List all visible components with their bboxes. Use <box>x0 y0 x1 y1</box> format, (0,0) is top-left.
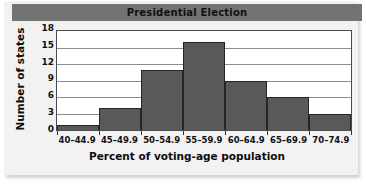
x-tick-label: 40–44.9 <box>56 134 98 146</box>
x-tick-label: 70–74.9 <box>310 134 352 146</box>
y-tick-label: 18 <box>34 24 54 33</box>
x-tick-label: 65–69.9 <box>267 134 309 146</box>
y-tick-label: 6 <box>34 91 54 100</box>
figure-plate: Presidential Election Number of states 1… <box>4 1 358 175</box>
bar <box>183 42 225 130</box>
x-axis-title: Percent of voting-age population <box>12 150 362 162</box>
y-tick-label: 3 <box>34 108 54 117</box>
bar <box>309 114 351 131</box>
y-axis-title: Number of states <box>14 23 28 135</box>
x-tick-label: 55–59.9 <box>183 134 225 146</box>
plot-area <box>56 30 352 131</box>
figure-screenshot: Presidential Election Number of states 1… <box>0 0 366 184</box>
chart-title: Presidential Election <box>12 4 362 21</box>
x-axis-tick-labels: 40–44.9 45–49.9 50–54.9 55–59.9 60–64.9 … <box>56 134 352 146</box>
bar <box>99 108 141 130</box>
bar-series <box>57 31 351 130</box>
y-axis-tick-labels: 18 15 12 9 6 3 0 <box>34 24 54 138</box>
x-tick-label: 45–49.9 <box>98 134 140 146</box>
bar <box>267 97 309 130</box>
y-tick-label: 9 <box>34 74 54 83</box>
y-tick-label: 12 <box>34 58 54 67</box>
x-tick-label: 60–64.9 <box>225 134 267 146</box>
bar <box>57 125 99 131</box>
bar <box>141 70 183 131</box>
title-banner: Presidential Election <box>12 4 362 21</box>
x-tick-label: 50–54.9 <box>141 134 183 146</box>
bar <box>225 81 267 131</box>
y-tick-label: 0 <box>34 125 54 134</box>
y-tick-label: 15 <box>34 41 54 50</box>
